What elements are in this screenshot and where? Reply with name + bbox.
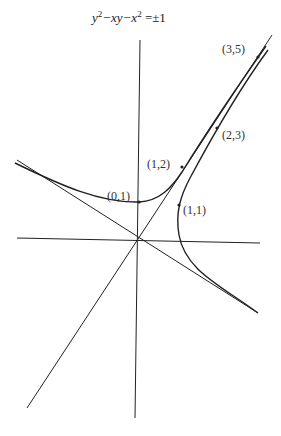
- point-1-1: [177, 203, 180, 206]
- point-3-5: [256, 55, 259, 58]
- label-2-3: (2,3): [222, 128, 245, 142]
- point-1-2: [180, 165, 183, 168]
- hyperbola-branch-minus: [178, 50, 268, 313]
- label-1-2: (1,2): [147, 157, 170, 171]
- hyperbola-branch-plus: [15, 46, 266, 202]
- label-0-1: (0,1): [107, 189, 130, 203]
- asymptote-negative: [17, 160, 258, 313]
- label-3-5: (3,5): [222, 42, 245, 56]
- label-1-1: (1,1): [183, 203, 206, 217]
- y-axis: [135, 40, 140, 418]
- equation-title: y2−xy−x2 =±1: [90, 9, 166, 25]
- point-2-3: [215, 126, 218, 129]
- point-0-1: [137, 200, 140, 203]
- hyperbola-diagram: (0,1) (1,2) (1,1) (2,3) (3,5) y2−xy−x2 =…: [0, 0, 281, 436]
